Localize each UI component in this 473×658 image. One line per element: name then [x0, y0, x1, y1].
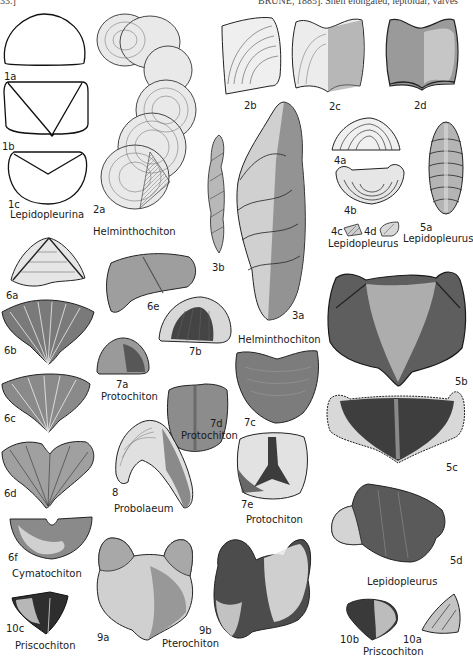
figure-7b [157, 295, 233, 345]
genus-label-lepidopleurus-3: Lepidopleurus [367, 576, 437, 587]
figure-2b [220, 14, 284, 96]
label-3a: 3a [292, 310, 305, 321]
figure-10a [420, 592, 462, 636]
genus-label-helminthochiton-2: Helminthochiton [238, 334, 321, 345]
genus-label-lepidopleurina: Lepidopleurina [10, 209, 84, 220]
figure-9a [94, 536, 198, 642]
label-9b: 9b [199, 625, 212, 636]
figure-5c [326, 383, 466, 463]
figure-2a [90, 12, 200, 212]
label-5d: 5d [450, 555, 463, 566]
label-7b: 7b [189, 346, 202, 357]
label-3b: 3b [212, 262, 225, 273]
label-7c: 7c [244, 417, 256, 428]
label-5a: 5a [420, 222, 433, 233]
label-10a: 10a [403, 634, 422, 645]
genus-label-lepidopleurus: Lepidopleurus [328, 238, 398, 249]
figure-7a [95, 336, 151, 376]
genus-label-protochiton-3: Protochiton [246, 514, 303, 525]
label-6f: 6f [8, 552, 18, 563]
running-text-header: BRUNE, 1885]. Shell elongated, leptoidal… [258, 0, 458, 6]
figure-4a [330, 116, 402, 154]
label-4d: 4d [364, 226, 377, 237]
figure-2c [290, 14, 366, 96]
figure-6a [7, 236, 87, 292]
label-5c: 5c [446, 462, 458, 473]
figure-4d [378, 220, 402, 238]
genus-label-helminthochiton: Helminthochiton [93, 226, 176, 237]
label-9a: 9a [97, 632, 110, 643]
figure-2d [384, 14, 460, 94]
figure-3a [232, 100, 312, 322]
figure-4b [334, 162, 406, 206]
figure-5d [328, 482, 450, 566]
genus-label-pterochiton: Pterochiton [162, 638, 219, 649]
figure-6d [0, 440, 98, 510]
figure-5a [427, 120, 465, 216]
label-2a: 2a [93, 204, 106, 215]
figure-8 [112, 416, 200, 510]
genus-label-lepidopleurus-2: Lepidopleurus [403, 233, 473, 244]
genus-label-cymatochiton: Cymatochiton [12, 568, 82, 579]
label-6d: 6d [4, 488, 17, 499]
label-4b: 4b [344, 205, 357, 216]
figure-9b [212, 536, 316, 640]
genus-label-priscochiton: Priscochiton [15, 640, 76, 651]
page-number-header: 33.] [0, 0, 16, 6]
label-10b: 10b [340, 634, 359, 645]
figure-1a [2, 12, 88, 68]
figure-1b [2, 80, 88, 138]
label-6c: 6c [4, 413, 16, 424]
figure-7e [234, 429, 310, 501]
label-8: 8 [112, 487, 118, 498]
genus-label-protochiton: Protochiton [101, 391, 158, 402]
figure-4c [342, 222, 364, 238]
label-10c: 10c [6, 623, 24, 634]
figure-6f [8, 515, 94, 561]
label-7a: 7a [116, 379, 129, 390]
figure-3b [205, 133, 227, 255]
label-4c: 4c [331, 226, 343, 237]
label-2d: 2d [414, 100, 427, 111]
genus-label-probolaeum: Probolaeum [114, 503, 173, 514]
label-7e: 7e [241, 499, 254, 510]
genus-label-priscochiton-2: Priscochiton [363, 646, 424, 657]
label-7d: 7d [210, 418, 223, 429]
label-2c: 2c [329, 101, 341, 112]
label-6b: 6b [4, 345, 17, 356]
figure-6c [0, 372, 92, 434]
figure-7c [233, 347, 321, 425]
figure-1c [6, 150, 88, 206]
figure-5b [326, 268, 470, 388]
